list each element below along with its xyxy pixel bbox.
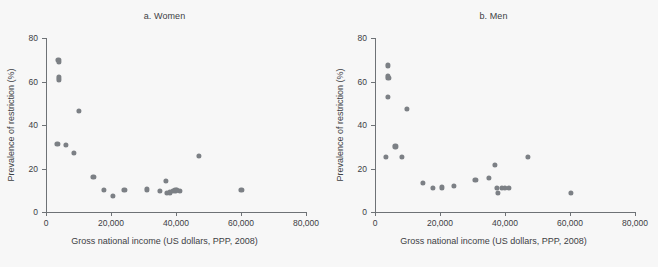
scatter-point [451,183,456,188]
x-axis-tick-label: 60,000 [557,218,583,228]
scatter-point [568,190,573,195]
scatter-point [91,175,96,180]
y-axis-line [375,38,376,212]
panel-title-women: a. Women [0,11,329,21]
scatter-point [64,142,69,147]
scatter-point [71,150,76,155]
x-axis-tick-label: 80,000 [293,218,319,228]
scatter-point [473,177,478,182]
scatter-point [525,154,530,159]
y-axis-title-men: Prevalence of restriction (%) [335,38,349,212]
y-axis-tick-label: 40 [358,120,367,130]
scatter-point [405,107,410,112]
x-axis-tick [241,212,242,216]
x-axis-title-men: Gross national income (US dollars, PPP, … [329,236,658,246]
scatter-point [178,188,183,193]
scatter-point [492,162,497,167]
scatter-point [110,193,115,198]
y-axis-tick-label: 0 [33,207,38,217]
scatter-point [157,188,162,193]
scatter-point [239,187,244,192]
scatter-point [163,179,168,184]
scatter-point [495,190,500,195]
y-axis-tick [42,125,46,126]
y-axis-tick [371,38,375,39]
x-axis-tick-label: 0 [44,218,49,228]
scatter-point [439,185,444,190]
x-axis-tick [635,212,636,216]
scatter-point [421,180,426,185]
y-axis-tick [371,125,375,126]
scatter-point [506,185,511,190]
y-axis-tick [42,82,46,83]
y-axis-tick-label: 80 [29,33,38,43]
scatter-point [393,144,398,149]
panel-title-men: b. Men [329,11,658,21]
x-axis-title-women: Gross national income (US dollars, PPP, … [0,236,329,246]
x-axis-tick-label: 40,000 [492,218,518,228]
scatter-point [77,109,82,114]
plot-area-men: 020406080020,00040,00060,00080,000 [375,38,635,212]
x-axis-tick [306,212,307,216]
x-axis-tick-label: 20,000 [427,218,453,228]
x-axis-tick-label: 80,000 [622,218,648,228]
scatter-point [386,75,391,80]
x-axis-tick-label: 0 [373,218,378,228]
scatter-point [385,94,390,99]
y-axis-tick [371,169,375,170]
x-axis-tick [505,212,506,216]
x-axis-tick [111,212,112,216]
scatter-point [431,186,436,191]
y-axis-tick [371,82,375,83]
scatter-point [144,187,149,192]
plot-area-women: 020406080020,00040,00060,00080,000 [46,38,306,212]
x-axis-tick [440,212,441,216]
y-axis-title-women: Prevalence of restriction (%) [6,38,20,212]
scatter-point [101,187,106,192]
scatter-point [196,153,201,158]
scatter-point [55,142,60,147]
y-axis-tick-label: 60 [29,77,38,87]
x-axis-tick-label: 40,000 [163,218,189,228]
scatter-point [400,155,405,160]
y-axis-tick-label: 60 [358,77,367,87]
x-axis-tick-label: 60,000 [228,218,254,228]
panel-men: b. Men 020406080020,00040,00060,00080,00… [329,0,658,267]
scatter-point [385,63,390,68]
scatter-point [486,175,491,180]
scatter-point [122,187,127,192]
panel-women: a. Women 020406080020,00040,00060,00080,… [0,0,329,267]
x-axis-tick [570,212,571,216]
scatter-point [383,155,388,160]
x-axis-tick [46,212,47,216]
scatter-point [56,77,61,82]
x-axis-tick-label: 20,000 [98,218,124,228]
y-axis-tick-label: 0 [362,207,367,217]
y-axis-tick [42,38,46,39]
y-axis-tick-label: 80 [358,33,367,43]
y-axis-tick-label: 20 [29,164,38,174]
y-axis-line [46,38,47,212]
x-axis-tick [375,212,376,216]
y-axis-tick [42,169,46,170]
x-axis-tick [176,212,177,216]
y-axis-tick-label: 20 [358,164,367,174]
y-axis-tick-label: 40 [29,120,38,130]
scatter-plot-figure: a. Women 020406080020,00040,00060,00080,… [0,0,658,267]
scatter-point [56,59,61,64]
